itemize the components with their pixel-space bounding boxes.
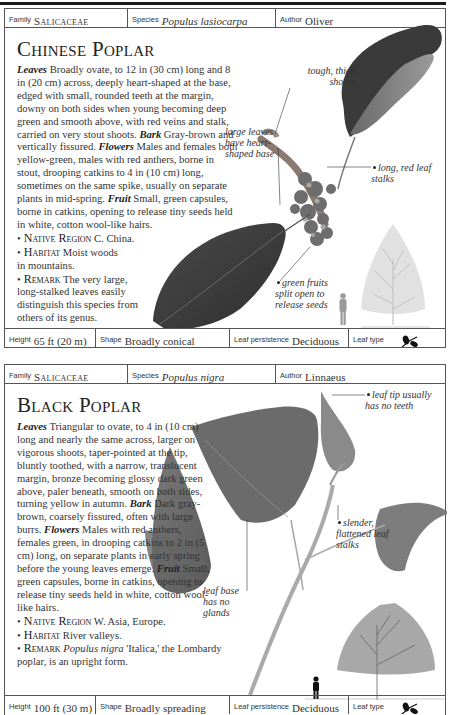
fruit-label: Fruit: [157, 563, 180, 574]
species-title: Chinese Poplar: [17, 37, 155, 62]
fact-remark: •Remark Populus nigra 'Italica,' the Lom…: [17, 642, 227, 669]
description-paragraph: Leaves Triangular to ovate, to 4 in (10 …: [17, 421, 211, 615]
annotation-leaf-base: leaf base has no glands: [203, 585, 251, 618]
leaf-type-cell: Leaf type: [349, 329, 445, 347]
persistence-value: Deciduous: [292, 335, 339, 347]
flowers-label: Flowers: [99, 141, 134, 152]
species-card-chinese-poplar: FamilySalicaceae SpeciesPopulus lasiocar…: [4, 8, 446, 348]
fact-remark: •Remark The very large, long-stalked lea…: [17, 273, 147, 326]
shape-value: Broadly spreading: [125, 702, 206, 714]
leaf-type-cell: Leaf type: [349, 696, 445, 714]
height-value: 100 ft (30 m): [34, 702, 92, 714]
leaf-sprig-icon: [399, 335, 419, 347]
species-card-black-poplar: FamilySalicaceae SpeciesPopulus nigra Au…: [4, 364, 446, 715]
annotation-red-leaf-stalks: long, red leaf stalks: [371, 162, 441, 184]
leaf-persistence-cell: Leaf persistenceDeciduous: [230, 329, 349, 347]
annotation-leaf-tip: leaf tip usually has no teeth: [365, 389, 445, 411]
leaves-label: Leaves: [17, 421, 47, 432]
shape-cell: ShapeBroadly spreading: [96, 696, 230, 714]
shape-value: Broadly conical: [125, 335, 195, 347]
annotation-tough-shoots: tough, thick shoots: [285, 65, 355, 87]
description-paragraph: Leaves Broadly ovate, to 12 in (30 cm) l…: [17, 64, 239, 232]
card-footer: Height65 ft (20 m) ShapeBroadly conical …: [5, 328, 445, 347]
annotation-green-fruits: green fruits split open to release seeds: [275, 277, 337, 310]
height-cell: Height65 ft (20 m): [5, 329, 96, 347]
bark-label: Bark: [130, 498, 152, 509]
flowers-label: Flowers: [44, 524, 79, 535]
species-description: Leaves Triangular to ovate, to 4 in (10 …: [17, 421, 211, 669]
leaf-sprig-icon: [399, 702, 419, 714]
fact-habitat: •Habitat Moist woods in mountains.: [17, 246, 127, 273]
species-description: Leaves Broadly ovate, to 12 in (30 cm) l…: [17, 64, 239, 325]
height-cell: Height100 ft (30 m): [5, 696, 96, 714]
leaves-text: Triangular to ovate, to 4 in (10 cm) lon…: [17, 421, 203, 509]
fact-native-region: •Native Region C. China.: [17, 232, 239, 246]
fact-habitat: •Habitat River valleys.: [17, 629, 211, 643]
height-value: 65 ft (20 m): [34, 335, 87, 347]
persistence-value: Deciduous: [292, 702, 339, 714]
page-top-rule: [0, 2, 446, 5]
annotation-leaf-stalks: slender, flattened leaf stalks: [336, 517, 401, 550]
leaves-label: Leaves: [17, 64, 47, 75]
leaf-persistence-cell: Leaf persistenceDeciduous: [230, 696, 349, 714]
bark-label: Bark: [139, 129, 161, 140]
fruit-label: Fruit: [108, 193, 131, 204]
shape-cell: ShapeBroadly conical: [96, 329, 230, 347]
card-footer: Height100 ft (30 m) ShapeBroadly spreadi…: [5, 695, 445, 714]
species-title: Black Poplar: [17, 393, 142, 418]
annotation-heart-shaped-base: large leaves have heart-shaped base: [225, 126, 285, 159]
